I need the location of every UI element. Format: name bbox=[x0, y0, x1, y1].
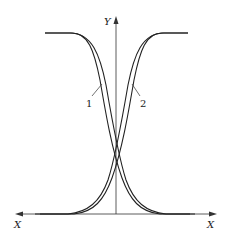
x-axis-right-arrow-icon bbox=[209, 212, 217, 217]
curve-1-leader bbox=[92, 84, 102, 96]
curve-2 bbox=[35, 33, 195, 214]
curve-1-label: 1 bbox=[86, 98, 92, 109]
diagram-canvas: Y X X 1 2 bbox=[0, 0, 229, 241]
x-axis-label-right: X bbox=[206, 219, 215, 230]
curve-1 bbox=[40, 33, 190, 214]
x-axis-left-arrow-icon bbox=[15, 212, 23, 217]
y-axis-arrow-icon bbox=[114, 16, 119, 24]
x-axis-label-left: X bbox=[13, 219, 22, 230]
y-axis-label: Y bbox=[104, 16, 112, 27]
curve-2-label: 2 bbox=[140, 98, 146, 109]
curve-2-leader bbox=[132, 84, 140, 96]
